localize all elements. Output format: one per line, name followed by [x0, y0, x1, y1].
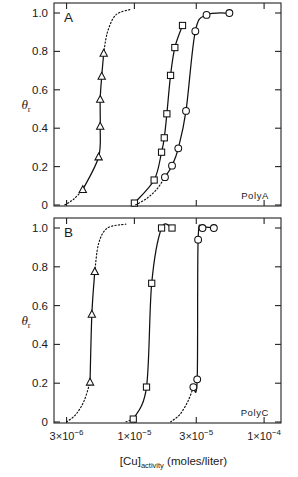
x-axis-title: [Cu]activity (moles/liter) — [120, 455, 227, 470]
y-axis-label-b: θr — [21, 313, 30, 330]
svg-text:3×10−5: 3×10−5 — [179, 428, 213, 442]
curve-squares — [134, 25, 182, 203]
data-point-triangle — [88, 310, 95, 317]
y-tick-label: 0.8 — [32, 45, 48, 57]
y-tick-label: 0 — [42, 199, 48, 211]
data-point-triangle — [79, 186, 86, 193]
data-point-square — [172, 44, 178, 50]
y-tick-label: 0.6 — [32, 300, 48, 312]
data-point-circle — [194, 376, 201, 383]
data-point-square — [158, 225, 164, 231]
data-point-circle — [195, 236, 202, 243]
panel-b-annotation: PolyC — [241, 407, 269, 418]
data-point-circle — [169, 162, 176, 169]
data-point-circle — [162, 174, 169, 181]
x-tick-label: 3×10−6 — [50, 428, 84, 442]
data-point-square — [149, 280, 155, 286]
panel-frame-B — [54, 218, 281, 423]
data-point-circle — [192, 28, 199, 35]
y-tick-label: 0.4 — [32, 338, 49, 350]
dotted-curve-circles — [171, 387, 194, 422]
panel-letter-a: A — [64, 10, 73, 25]
dotted-curve-triangles — [104, 9, 132, 53]
y-tick-label: 0.8 — [32, 261, 48, 273]
data-point-circle — [190, 384, 197, 391]
y-tick-label: 0.6 — [32, 84, 48, 96]
y-axis-label-a: θr — [21, 97, 30, 114]
y-tick-label: 1.0 — [32, 222, 48, 234]
data-point-square — [151, 177, 157, 183]
svg-text:1×10−4: 1×10−4 — [247, 428, 281, 442]
data-point-triangle — [91, 268, 98, 275]
dotted-curve-circles — [136, 177, 165, 205]
data-point-square — [131, 200, 137, 206]
data-point-circle — [175, 145, 182, 152]
data-point-triangle — [98, 72, 105, 79]
data-point-square — [130, 416, 136, 422]
data-point-square — [143, 384, 149, 390]
svg-text:3×10−6: 3×10−6 — [50, 428, 84, 442]
data-point-triangle — [97, 122, 104, 129]
y-tick-label: 0.4 — [32, 122, 49, 134]
dotted-curve-triangles — [95, 224, 126, 272]
curve-triangles — [90, 272, 95, 383]
data-point-circle — [203, 12, 210, 19]
data-point-triangle — [86, 378, 93, 385]
data-point-square — [164, 111, 170, 117]
data-point-triangle — [95, 153, 102, 160]
data-point-triangle — [97, 95, 104, 102]
y-tick-label: 0 — [42, 416, 48, 428]
curve-circles — [165, 13, 229, 177]
data-point-circle — [183, 108, 190, 115]
data-point-square — [158, 149, 164, 155]
panel-letter-b: B — [64, 225, 73, 240]
x-tick-label: 3×10−5 — [179, 428, 213, 442]
data-point-square — [161, 135, 167, 141]
data-point-square — [167, 72, 173, 78]
data-point-circle — [226, 10, 233, 17]
data-point-circle — [210, 225, 217, 232]
y-tick-label: 0.2 — [32, 377, 48, 389]
y-tick-label: 0.2 — [32, 161, 48, 173]
x-tick-label: 1×10−4 — [247, 428, 281, 442]
curve-circles — [193, 225, 213, 392]
panel-a-annotation: PolyA — [241, 190, 269, 201]
data-point-square — [179, 22, 185, 28]
data-point-triangle — [100, 49, 107, 56]
svg-text:1×10−5: 1×10−5 — [117, 428, 151, 442]
y-tick-label: 1.0 — [32, 7, 48, 19]
curve-squares — [133, 224, 172, 419]
data-point-circle — [199, 225, 206, 232]
data-point-square — [169, 225, 175, 231]
chart-svg: 1.00.80.60.40.201.00.80.60.40.203×10−61×… — [0, 0, 298, 477]
figure-container: 1.00.80.60.40.201.00.80.60.40.203×10−61×… — [0, 0, 298, 477]
x-tick-label: 1×10−5 — [117, 428, 151, 442]
dotted-curve-triangles — [67, 382, 90, 422]
